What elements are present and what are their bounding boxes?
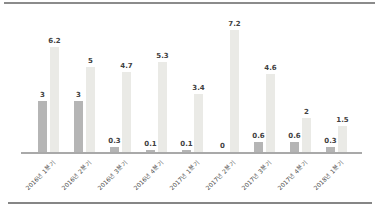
value-label: 0.3 — [103, 137, 127, 145]
x-tick-label: 2017년 3분기 — [239, 158, 273, 192]
bar-light — [266, 74, 275, 152]
x-tick-label: 2016년 2분기 — [59, 158, 93, 192]
bar-dark — [146, 150, 155, 152]
x-tick-label: 2018년 1분기 — [311, 158, 345, 192]
quarterly-bar-chart: 36.2350.34.70.15.30.13.407.20.64.60.620.… — [0, 0, 379, 200]
value-label: 3.4 — [187, 84, 211, 92]
value-label: 4.7 — [115, 62, 139, 70]
bottom-divider — [8, 202, 372, 204]
value-label: 5.3 — [151, 52, 175, 60]
x-tick-label: 2016년 1분기 — [23, 158, 57, 192]
bar-light — [86, 67, 95, 152]
value-label: 6.2 — [43, 37, 67, 45]
bar-light — [158, 62, 167, 152]
value-label: 0.3 — [319, 137, 343, 145]
value-label: 0.6 — [247, 132, 271, 140]
value-label: 0.1 — [175, 140, 199, 148]
x-axis-line — [21, 152, 362, 154]
bar-dark — [74, 101, 83, 152]
bar-dark — [182, 150, 191, 152]
value-label: 1.5 — [331, 116, 355, 124]
value-label: 2 — [295, 108, 319, 116]
value-label: 0.6 — [283, 132, 307, 140]
x-tick-label: 2017년 1분기 — [167, 158, 201, 192]
bar-light — [230, 30, 239, 152]
bar-dark — [110, 147, 119, 152]
value-label: 0 — [211, 142, 235, 150]
bar-dark — [38, 101, 47, 152]
bar-dark — [254, 142, 263, 152]
value-label: 4.6 — [259, 64, 283, 72]
x-tick-label: 2016년 3분기 — [95, 158, 129, 192]
value-label: 0.1 — [139, 140, 163, 148]
bar-dark — [326, 147, 335, 152]
x-tick-label: 2017년 4분기 — [275, 158, 309, 192]
bar-light — [50, 47, 59, 152]
value-label: 3 — [31, 91, 55, 99]
value-label: 5 — [79, 57, 103, 65]
value-label: 7.2 — [223, 20, 247, 28]
x-tick-label: 2017년 2분기 — [203, 158, 237, 192]
report-page: 36.2350.34.70.15.30.13.407.20.64.60.620.… — [0, 0, 379, 210]
x-tick-label: 2016년 4분기 — [131, 158, 165, 192]
value-label: 3 — [67, 91, 91, 99]
bar-dark — [290, 142, 299, 152]
